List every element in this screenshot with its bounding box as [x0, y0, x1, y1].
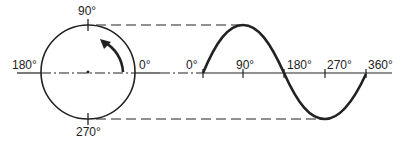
label-wave-180: 180°	[287, 59, 312, 71]
circle-center-dot	[87, 71, 90, 74]
label-circle-270: 270°	[76, 126, 101, 138]
sine-wave-curve	[203, 25, 366, 119]
diagram-graphics	[0, 0, 405, 145]
sine-wave-diagram: 90° 180° 0° 270° 0° 90° 180° 270° 360°	[0, 0, 405, 145]
label-circle-90: 90°	[78, 5, 96, 17]
label-circle-0: 0°	[139, 59, 150, 71]
rotation-arrow	[104, 42, 123, 72]
label-wave-90: 90°	[236, 59, 254, 71]
label-circle-180: 180°	[12, 59, 37, 71]
label-wave-270: 270°	[327, 59, 352, 71]
label-wave-0: 0°	[186, 59, 197, 71]
label-wave-360: 360°	[368, 59, 393, 71]
